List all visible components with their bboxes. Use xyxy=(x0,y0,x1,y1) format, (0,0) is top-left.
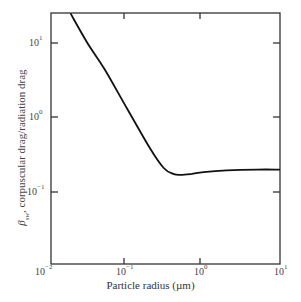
data-curve xyxy=(71,13,280,174)
x-tick-label-0: 100 xyxy=(194,266,208,277)
y-tick-label-1: 101 xyxy=(29,37,43,48)
x-axis-label: Particle radius (µm) xyxy=(0,279,301,291)
x-tick-label-minus2: 10−2 xyxy=(35,266,52,277)
y-axis-label: βsw, corpuscular drag/radiation drag xyxy=(15,38,30,258)
x-tick-label-1: 101 xyxy=(274,266,288,277)
y-tick-label-0: 100 xyxy=(29,111,43,122)
plot-frame xyxy=(51,13,280,264)
plot-canvas xyxy=(0,0,301,302)
x-tick-label-minus1: 10−1 xyxy=(116,266,133,277)
axis-ticks xyxy=(51,13,280,264)
